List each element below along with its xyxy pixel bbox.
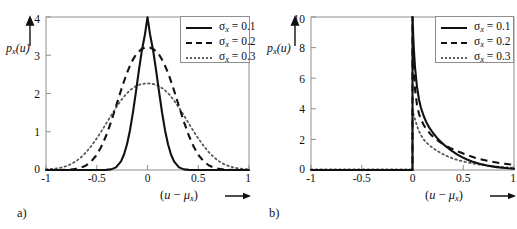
legend-row-b-1: σx = 0.2 <box>436 34 513 49</box>
legend-label-a-1: σx = 0.2 <box>219 35 256 49</box>
figure-container: 4 3 2 1 0 -1 -0.5 0 0.5 1 px(u) (u − μx)… <box>0 0 517 229</box>
legend-label-a-2: σx = 0.3 <box>219 50 256 64</box>
legend-label-b-0: σx = 0.1 <box>474 20 511 34</box>
legend-line-sample-dashed-icon <box>186 36 212 48</box>
y-ticklabel-a-0: 0 <box>26 164 40 176</box>
x-ticklabel-b-3: 0.5 <box>456 173 470 185</box>
panel-b: 10 8 6 4 2 0 -1 -0.5 0 0.5 1 px(u) (u − … <box>259 0 517 229</box>
x-ticklabel-b-4: 1 <box>510 173 516 185</box>
x-ticklabel-a-1: -0.5 <box>88 173 106 185</box>
y-ticklabel-b-1: 2 <box>285 135 305 147</box>
y-ticks-a <box>46 17 51 170</box>
x-axis-arrow-b <box>490 190 516 202</box>
legend-row-b-2: σx = 0.3 <box>436 49 513 64</box>
legend-row-a-2: σx = 0.3 <box>181 49 249 64</box>
x-axis-label-b-close: ) <box>459 188 463 202</box>
legend-row-b-0: σx = 0.1 <box>436 19 513 34</box>
panel-caption-a: a) <box>17 207 27 220</box>
x-axis-label-a: (u − μx) <box>160 189 198 203</box>
x-axis-arrow-a <box>225 190 251 202</box>
curve-sigma-0-2-a <box>46 47 249 170</box>
legend-b: σx = 0.1 σx = 0.2 σx = 0.3 <box>435 16 514 63</box>
y-axis-label-a-tail: (u) <box>16 41 30 55</box>
legend-line-sample-solid-icon <box>186 21 212 33</box>
y-ticklabel-a-1: 1 <box>26 127 40 139</box>
y-ticklabel-b-3: 6 <box>285 74 305 86</box>
legend-line-sample-dotted-icon <box>186 51 212 63</box>
legend-line-sample-dotted-icon <box>441 51 467 63</box>
x-ticklabel-b-0: -1 <box>306 173 316 185</box>
legend-label-b-1: σx = 0.2 <box>474 35 511 49</box>
y-ticklabel-b-2: 4 <box>285 104 305 116</box>
y-ticklabel-a-2: 2 <box>26 89 40 101</box>
x-ticklabel-a-0: -1 <box>41 173 51 185</box>
y-axis-label-b: px(u) <box>267 42 291 56</box>
y-ticklabel-b-0: 0 <box>285 164 305 176</box>
legend-label-a-0: σx = 0.1 <box>219 20 256 34</box>
y-axis-label-a: px(u) <box>6 42 30 56</box>
x-axis-label-b-minus: − <box>435 188 448 202</box>
x-ticklabel-a-2: 0 <box>145 173 151 185</box>
panel-a: 4 3 2 1 0 -1 -0.5 0 0.5 1 px(u) (u − μx)… <box>0 0 258 229</box>
y-ticklabel-a-4: 4 <box>26 14 40 26</box>
x-axis-label-a-close: ) <box>194 188 198 202</box>
legend-line-sample-solid-icon <box>441 21 467 33</box>
x-ticklabel-b-2: 0 <box>410 173 416 185</box>
legend-line-sample-dashed-icon <box>441 36 467 48</box>
x-ticklabel-a-3: 0.5 <box>191 173 205 185</box>
y-ticks-b <box>311 17 316 170</box>
legend-label-b-2: σx = 0.3 <box>474 50 511 64</box>
curve-sigma-0-3-a <box>46 83 249 169</box>
x-ticklabel-b-1: -0.5 <box>353 173 371 185</box>
legend-row-a-1: σx = 0.2 <box>181 34 249 49</box>
legend-row-a-0: σx = 0.1 <box>181 19 249 34</box>
legend-a: σx = 0.1 σx = 0.2 σx = 0.3 <box>180 16 250 63</box>
panel-caption-b: b) <box>269 207 279 220</box>
x-axis-label-a-minus: − <box>170 188 183 202</box>
x-ticklabel-a-4: 1 <box>245 173 251 185</box>
y-axis-label-b-tail: (u) <box>277 41 291 55</box>
x-axis-label-b: (u − μx) <box>425 189 463 203</box>
y-ticklabel-b-5: 10 <box>285 14 305 26</box>
